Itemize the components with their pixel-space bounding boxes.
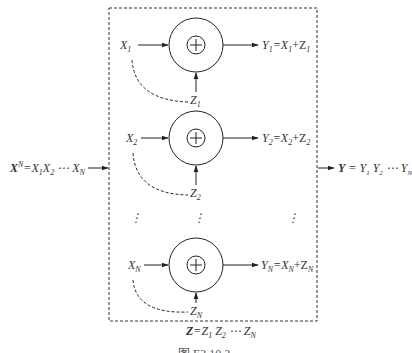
ellipsis-input: ⋮ <box>130 211 142 225</box>
ellipsis-output: ⋮ <box>287 211 299 225</box>
figure-caption: 图 E3.10.2 <box>178 347 230 353</box>
input-x2-label: X2 <box>125 131 137 147</box>
noise-z1-label: Z1 <box>190 93 201 109</box>
ellipsis-noise: ⋮ <box>193 211 205 225</box>
branch-n: XN YN=XN+ZN ZN <box>127 238 314 320</box>
output-y2-equation: Y2=X2+Z2 <box>262 131 310 147</box>
noise-zn-label: ZN <box>190 304 203 320</box>
output-yn-equation: YN=XN+ZN <box>261 258 314 274</box>
input-xn-label: XN <box>127 258 141 274</box>
input-x1-label: X1 <box>119 38 131 54</box>
output-sequence: Y = Y1 Y2 ⋯ YN <box>318 161 412 177</box>
noise-vector-label: Z=Z1 Z2 ⋯ ZN <box>185 324 257 340</box>
svg-text:Y = Y1 Y2 ⋯ YN: Y = Y1 Y2 ⋯ YN <box>338 161 412 177</box>
channel-diagram: XN=X1X2 ⋯ XN Y = Y1 Y2 ⋯ YN X1 Y1=X1+Z1 … <box>0 0 412 353</box>
noise-z2-label: Z2 <box>190 186 201 202</box>
output-y1-equation: Y1=X1+Z1 <box>262 38 310 54</box>
channel-boundary-box <box>109 8 317 321</box>
branch-1: X1 Y1=X1+Z1 Z1 <box>119 18 310 109</box>
noise-correlation-arc <box>133 280 188 312</box>
branch-2: X2 Y2=X2+Z2 Z2 <box>125 111 310 202</box>
svg-text:XN=X1X2 ⋯ XN: XN=X1X2 ⋯ XN <box>9 160 85 177</box>
input-sequence: XN=X1X2 ⋯ XN <box>9 160 108 177</box>
vertical-ellipsis-group: ⋮ ⋮ ⋮ <box>130 211 299 225</box>
